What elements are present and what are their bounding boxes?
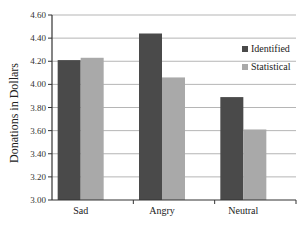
y-tick-label: 3.40	[30, 149, 46, 159]
y-tick-label: 4.00	[30, 79, 46, 89]
x-category-labels: SadAngryNeutral	[73, 205, 258, 216]
y-tick-label: 4.40	[30, 33, 46, 43]
y-tick-labels: 3.003.203.403.603.804.004.204.404.60	[30, 10, 46, 205]
bar-identified-neutral	[220, 97, 243, 200]
x-category-label: Neutral	[228, 205, 258, 216]
legend-swatch-identified	[242, 46, 248, 52]
bar-statistical-neutral	[243, 129, 266, 200]
bar-chart: 3.003.203.403.603.804.004.204.404.60 Sad…	[0, 0, 308, 228]
legend-swatch-statistical	[242, 64, 248, 70]
legend-label-identified: Identified	[251, 43, 290, 54]
legend-label-statistical: Statistical	[251, 61, 291, 72]
y-tick-label: 4.20	[30, 56, 46, 66]
bar-identified-angry	[139, 34, 162, 201]
bar-statistical-sad	[81, 58, 104, 200]
x-category-label: Angry	[149, 205, 175, 216]
bar-statistical-angry	[162, 77, 185, 200]
x-category-label: Sad	[73, 205, 88, 216]
bars	[58, 34, 267, 201]
y-tick-label: 3.00	[30, 195, 46, 205]
y-tick-label: 4.60	[30, 10, 46, 20]
y-tick-label: 3.20	[30, 172, 46, 182]
y-tick-label: 3.60	[30, 126, 46, 136]
y-axis-label: Donations in Dollars	[7, 63, 21, 163]
y-tick-label: 3.80	[30, 103, 46, 113]
legend: IdentifiedStatistical	[242, 43, 291, 72]
bar-identified-sad	[58, 60, 81, 200]
